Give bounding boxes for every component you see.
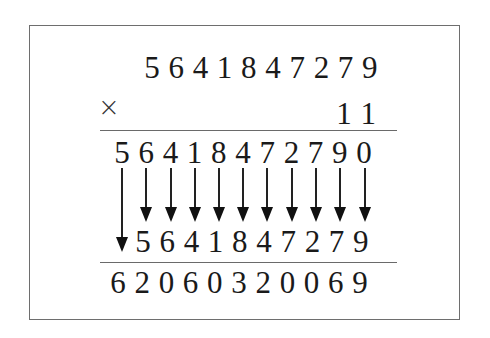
shifted-partial-digit: 8 [207, 137, 231, 168]
bottom-rule [100, 262, 397, 263]
multiplicand-digit: 7 [285, 52, 309, 83]
multiplicand-digit: 2 [309, 52, 333, 83]
arrow-shaft [364, 168, 365, 210]
partial-digit: 5 [131, 226, 155, 257]
result-digit: 2 [251, 267, 275, 298]
shifted-partial-digit: 4 [158, 137, 182, 168]
multiplier-digit: 1 [356, 98, 380, 129]
partial-digit: 4 [252, 226, 276, 257]
arrow-shaft [266, 168, 267, 210]
multiplicand-digit: 5 [140, 52, 164, 83]
arrow-shaft [315, 168, 316, 210]
partial-digit: 8 [228, 226, 252, 257]
multiplicand-digit: 6 [164, 52, 188, 83]
shifted-partial-digit: 4 [231, 137, 255, 168]
multiplicand-digit: 4 [188, 52, 212, 83]
partial-digit: 6 [155, 226, 179, 257]
arrow-head-icon [334, 207, 346, 222]
shifted-partial-digit: 1 [183, 137, 207, 168]
arrow-head-icon [310, 207, 322, 222]
shifted-partial-digit: 7 [255, 137, 279, 168]
partial-digit: 2 [300, 226, 324, 257]
arrow-head-icon [286, 207, 298, 222]
multiply-sign-icon: × [98, 94, 120, 120]
shifted-partial-digit: 5 [110, 137, 134, 168]
shifted-partial-digit: 0 [352, 137, 376, 168]
result-digit: 6 [179, 267, 203, 298]
arrow-head-icon [237, 207, 249, 222]
arrow-shaft [145, 168, 146, 210]
arrow-head-icon [140, 207, 152, 222]
multiplicand-digit: 7 [334, 52, 358, 83]
result-digit: 6 [106, 267, 130, 298]
arrow-head-icon [261, 207, 273, 222]
result-digit: 9 [348, 267, 372, 298]
multiplicand-digit: 9 [358, 52, 382, 83]
partial-digit: 7 [276, 226, 300, 257]
shifted-partial-digit: 9 [328, 137, 352, 168]
arrow-head-icon [359, 207, 371, 222]
arrow-shaft [339, 168, 340, 210]
arrow-shaft [242, 168, 243, 210]
shifted-partial-digit: 7 [304, 137, 328, 168]
arrow-shaft [121, 168, 122, 240]
arrow-head-icon [189, 207, 201, 222]
result-digit: 0 [203, 267, 227, 298]
partial-digit: 7 [325, 226, 349, 257]
partial-digit: 1 [204, 226, 228, 257]
shifted-partial-digit: 2 [279, 137, 303, 168]
result-digit: 0 [275, 267, 299, 298]
arrow-shaft [291, 168, 292, 210]
result-digit: 6 [324, 267, 348, 298]
multiplier-digit: 1 [332, 98, 356, 129]
arrow-head-icon [116, 237, 128, 252]
result-digit: 3 [227, 267, 251, 298]
partial-digit: 9 [349, 226, 373, 257]
multiplicand-digit: 1 [213, 52, 237, 83]
arrow-head-icon [213, 207, 225, 222]
partial-digit: 4 [179, 226, 203, 257]
multiplicand-digit: 8 [237, 52, 261, 83]
arrow-shaft [170, 168, 171, 210]
arrow-shaft [218, 168, 219, 210]
result-digit: 2 [130, 267, 154, 298]
result-digit: 0 [300, 267, 324, 298]
multiplicand-digit: 4 [261, 52, 285, 83]
arrow-head-icon [165, 207, 177, 222]
arrow-shaft [194, 168, 195, 210]
top-rule [100, 130, 397, 131]
shifted-partial-digit: 6 [134, 137, 158, 168]
result-digit: 0 [154, 267, 178, 298]
